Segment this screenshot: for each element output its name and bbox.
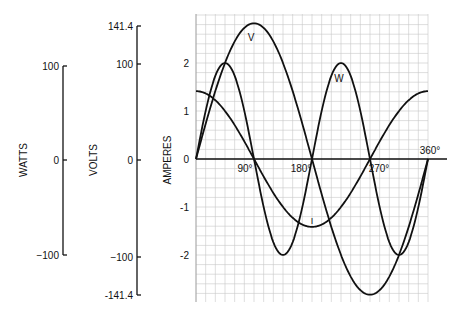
watts-tick-minus100: −100 xyxy=(36,250,59,261)
watts-tick-0: 0 xyxy=(53,155,59,166)
watts-axis-label: WATTS xyxy=(18,143,29,177)
curve-label-w: W xyxy=(334,73,344,84)
curve-label-v: V xyxy=(248,32,255,43)
x-tick-90: 90° xyxy=(237,163,252,174)
volts-tick-minus100: −100 xyxy=(110,252,133,263)
amperes-axis-label: AMPERES xyxy=(162,135,173,184)
volts-tick-141: 141.4 xyxy=(108,21,133,32)
power-waveform-chart: 100 0 −100 WATTS 141.4 100 0 −100 -141.4… xyxy=(0,0,461,318)
volts-axis: 141.4 100 0 −100 -141.4 VOLTS xyxy=(88,21,141,301)
amp-tick-0: 0 xyxy=(183,154,189,165)
watts-axis: 100 0 −100 WATTS xyxy=(18,61,67,261)
watts-tick-100: 100 xyxy=(42,61,59,72)
x-tick-360: 360° xyxy=(420,145,441,156)
volts-tick-100: 100 xyxy=(116,59,133,70)
x-tick-180: 180° xyxy=(291,163,312,174)
amp-tick-minus1: -1 xyxy=(180,202,189,213)
amp-tick-1: 1 xyxy=(183,106,189,117)
volts-tick-0: 0 xyxy=(127,155,133,166)
amp-tick-minus2: -2 xyxy=(180,250,189,261)
curve-label-i: I xyxy=(311,216,314,226)
amp-tick-2: 2 xyxy=(183,58,189,69)
volts-axis-label: VOLTS xyxy=(88,144,99,176)
amperes-axis: AMPERES 2 1 0 -1 -2 xyxy=(162,58,189,261)
volts-tick-minus141: -141.4 xyxy=(105,290,134,301)
